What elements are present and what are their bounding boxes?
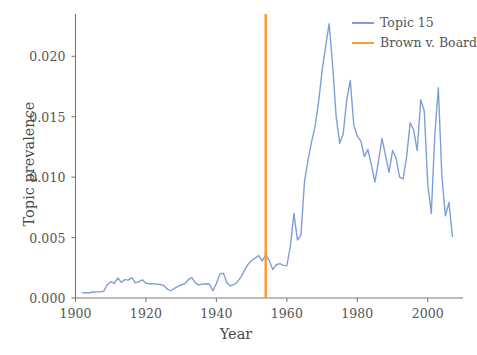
x-axis-tick-label: 1980 (341, 306, 373, 321)
x-axis-tick-label: 1960 (271, 306, 303, 321)
x-axis-title: Year (0, 326, 472, 342)
legend-item[interactable]: Brown v. Board (352, 34, 477, 51)
chart-legend: Topic 15Brown v. Board (352, 14, 477, 51)
x-axis-tick-label: 2000 (412, 306, 444, 321)
y-axis-tick-label: 0.000 (0, 291, 66, 306)
x-axis-tick-label: 1900 (59, 306, 91, 321)
y-axis-tick-label: 0.020 (0, 49, 66, 64)
legend-item[interactable]: Topic 15 (352, 14, 477, 31)
legend-label: Topic 15 (380, 15, 434, 30)
series-line-0 (83, 24, 453, 293)
y-axis-title: Topic prevalence (21, 79, 37, 249)
legend-swatch-icon (352, 42, 374, 44)
x-axis-tick-label: 1940 (200, 306, 232, 321)
legend-label: Brown v. Board (380, 35, 477, 50)
x-axis-tick-label: 1920 (130, 306, 162, 321)
legend-swatch-icon (352, 22, 374, 24)
